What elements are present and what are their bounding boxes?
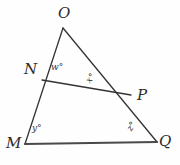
transversal (42, 80, 131, 95)
segment-OM (25, 28, 63, 144)
segment-OQ (63, 28, 157, 142)
vertex-label-O: O (58, 6, 70, 21)
angle-label-y: y° (32, 124, 42, 133)
vertex-label-P: P (137, 88, 147, 103)
vertex-label-M: M (6, 136, 21, 151)
segment-NP (42, 80, 131, 95)
vertex-label-N: N (24, 62, 37, 77)
geometry-figure: O N P M Q w° x° y° z° (0, 0, 180, 165)
angle-label-w: w° (51, 63, 63, 72)
segment-MQ (25, 142, 157, 144)
vertex-label-Q: Q (159, 134, 171, 149)
